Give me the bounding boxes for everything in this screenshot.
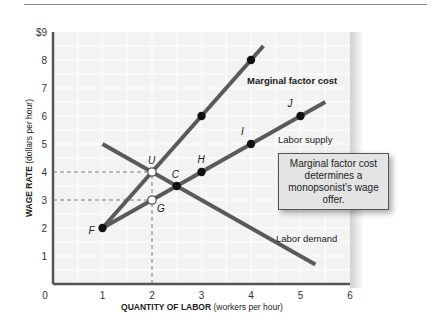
y-axis-title: WAGE RATE (dollars per hour) [24, 99, 34, 217]
data-point [197, 112, 205, 120]
y-tick-label: 7 [41, 83, 47, 94]
point-label-g: G [157, 203, 165, 214]
x-tick-label: 1 [100, 290, 106, 301]
data-point [98, 224, 106, 232]
point-label-c: C [172, 169, 180, 180]
demand-label: Labor demand [276, 233, 337, 244]
y-tick-label: $9 [36, 27, 48, 38]
y-tick-label: 8 [41, 55, 47, 66]
data-point [197, 168, 205, 176]
mfc-label: Marginal factor cost [247, 75, 338, 86]
point-label-j: J [287, 98, 294, 109]
y-tick-label: 6 [41, 111, 47, 122]
point-label-u: U [148, 155, 156, 166]
point-label-h: H [198, 154, 206, 165]
supply-label: Labor supply [278, 134, 333, 145]
annotation-callout: Marginal factor cost determines a monops… [278, 153, 389, 210]
open-point [148, 168, 156, 176]
y-tick-label: 1 [41, 251, 47, 262]
x-tick-label: 5 [298, 290, 304, 301]
x-axis-title: QUANTITY OF LABOR (workers per hour) [121, 302, 283, 312]
x-tick-label: 3 [199, 290, 205, 301]
y-tick-label: 4 [41, 167, 47, 178]
x-tick-label: 0 [42, 290, 48, 301]
point-label-f: F [89, 225, 96, 236]
callout-text: Marginal factor cost determines a monops… [281, 158, 386, 206]
data-point [296, 112, 304, 120]
y-tick-label: 3 [41, 195, 47, 206]
y-tick-label: 5 [41, 139, 47, 150]
x-tick-label: 4 [248, 290, 254, 301]
equilibrium-point [173, 182, 181, 190]
x-tick-label: 6 [347, 290, 353, 301]
data-point [247, 56, 255, 64]
point-label-i: I [241, 126, 244, 137]
data-point [247, 140, 255, 148]
y-tick-label: 2 [41, 223, 47, 234]
x-tick-label: 2 [149, 290, 155, 301]
open-point [148, 196, 156, 204]
